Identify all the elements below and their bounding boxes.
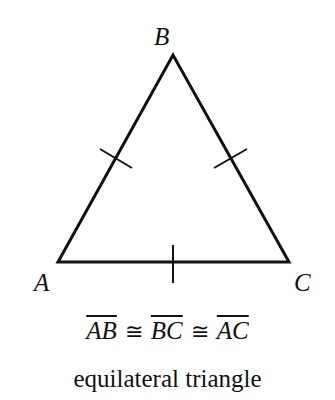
congruence-statement: AB≅BC≅AC (0, 318, 335, 343)
congruent-symbol: ≅ (125, 319, 143, 344)
caption: equilateral triangle (0, 366, 335, 391)
vertex-label-b: B (154, 24, 169, 49)
segment-bc: BC (151, 317, 183, 344)
tick-mark-bc (214, 149, 247, 168)
triangle-abc (58, 55, 289, 262)
congruent-symbol: ≅ (191, 319, 209, 344)
segment-ac: AC (217, 317, 249, 344)
vertex-label-a: A (34, 270, 49, 295)
segment-ab: AB (86, 317, 117, 344)
tick-mark-ab (100, 149, 132, 168)
vertex-label-c: C (294, 270, 311, 295)
